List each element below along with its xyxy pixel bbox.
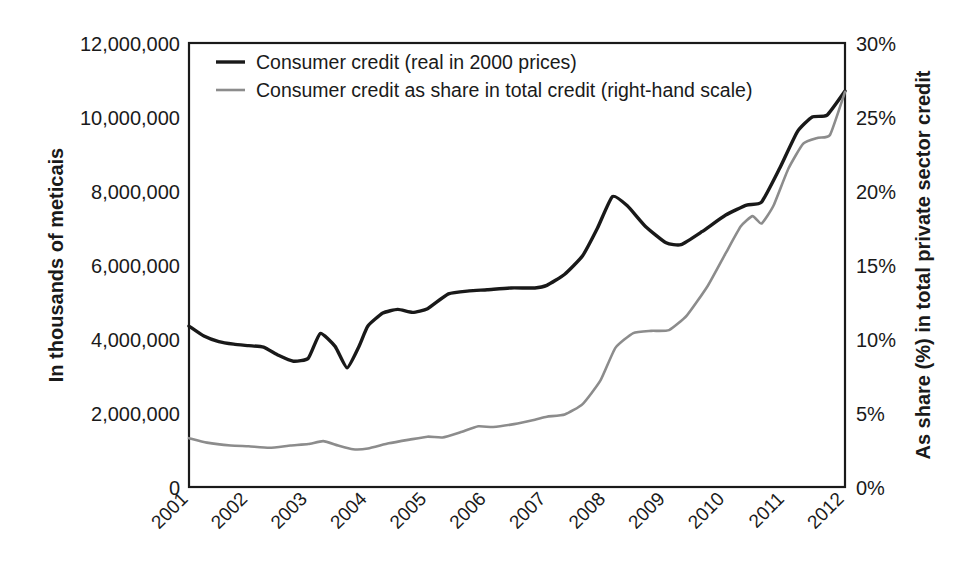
legend-label-secondary: Consumer credit as share in total credit…	[256, 79, 752, 101]
right-tick-label: 15%	[856, 255, 896, 277]
right-tick-label: 5%	[856, 403, 885, 425]
x-tick-label: 2012	[803, 488, 848, 533]
left-tick-label: 10,000,000	[80, 107, 180, 129]
right-tick-label: 20%	[856, 181, 896, 203]
series-line-consumer-credit	[189, 91, 845, 368]
x-tick-label: 2009	[624, 488, 669, 533]
left-tick-label: 2,000,000	[91, 403, 180, 425]
x-tick-label: 2005	[386, 488, 431, 533]
left-axis-title: In thousands of meticais	[45, 148, 67, 382]
left-tick-label: 12,000,000	[80, 33, 180, 55]
x-tick-label: 2002	[207, 488, 252, 533]
right-axis-title: As share (%) in total private sector cre…	[912, 70, 934, 459]
legend-label-primary: Consumer credit (real in 2000 prices)	[256, 51, 577, 73]
plot-area-frame	[189, 43, 845, 487]
left-tick-label: 4,000,000	[91, 329, 180, 351]
right-tick-label: 30%	[856, 33, 896, 55]
x-tick-label: 2011	[744, 488, 788, 532]
x-tick-label: 2004	[326, 488, 371, 533]
x-tick-label: 2007	[505, 488, 550, 533]
x-tick-label: 2003	[266, 488, 311, 533]
right-tick-label: 25%	[856, 107, 896, 129]
x-tick-label: 2006	[445, 488, 490, 533]
right-tick-label: 0%	[856, 477, 885, 499]
x-axis-ticks: 2001 2002 2003 2004 2005 2006 2007 2008 …	[147, 488, 848, 533]
chart-figure: 12,000,000 10,000,000 8,000,000 6,000,00…	[0, 0, 957, 565]
chart-legend: Consumer credit (real in 2000 prices) Co…	[216, 51, 752, 101]
x-tick-label: 2001	[147, 488, 192, 533]
x-tick-label: 2010	[684, 488, 729, 533]
series-line-consumer-credit-share	[189, 92, 845, 449]
left-tick-label: 8,000,000	[91, 181, 180, 203]
right-axis-ticks: 30% 25% 20% 15% 10% 5% 0%	[856, 33, 896, 499]
left-tick-label: 6,000,000	[91, 255, 180, 277]
left-axis-ticks: 12,000,000 10,000,000 8,000,000 6,000,00…	[80, 33, 180, 499]
right-tick-label: 10%	[856, 329, 896, 351]
chart-canvas: 12,000,000 10,000,000 8,000,000 6,000,00…	[0, 0, 957, 565]
x-tick-label: 2008	[564, 488, 609, 533]
